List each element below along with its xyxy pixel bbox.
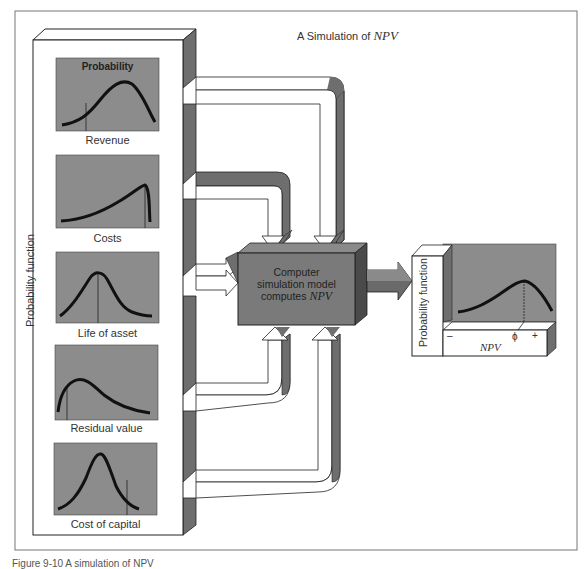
input-label-life-of-asset: Life of asset — [56, 327, 159, 339]
output-x-label: NPV — [480, 341, 501, 353]
input-label-revenue: Revenue — [56, 134, 159, 146]
tick-plus: + — [532, 330, 538, 341]
box-line-1: Computer — [238, 266, 355, 278]
mini-chart-title: Probability — [56, 61, 159, 72]
npv-simulation-diagram: A Simulation of NPV Probability function… — [0, 0, 587, 569]
tick-zero: ϕ — [512, 331, 518, 342]
output-axis-label: Probability function — [417, 258, 429, 347]
input-label-cost-of-capital: Cost of capital — [54, 518, 157, 530]
input-label-costs: Costs — [56, 232, 159, 244]
simulation-model-label: Computer simulation model computes NPV — [238, 266, 355, 302]
tick-minus: – — [447, 330, 453, 341]
mini-chart-costs — [56, 155, 159, 228]
mini-chart-residual-value — [55, 345, 158, 420]
mini-chart-life-of-asset — [56, 252, 159, 323]
box-line-3: computes NPV — [238, 290, 355, 302]
input-axis-label: Probability function — [24, 234, 36, 327]
diagram-title: A Simulation of NPV — [297, 28, 398, 44]
figure-caption: Figure 9-10 A simulation of NPV — [12, 558, 154, 569]
input-label-residual-value: Residual value — [55, 422, 158, 434]
box-line-2: simulation model — [238, 278, 355, 290]
mini-chart-cost-of-capital — [54, 443, 157, 515]
